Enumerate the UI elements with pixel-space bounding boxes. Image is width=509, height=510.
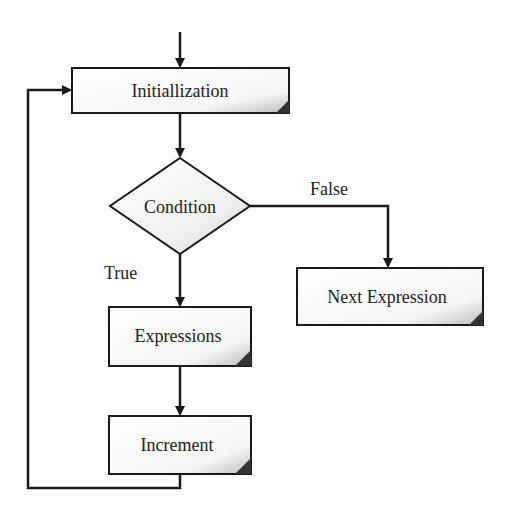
node-label: Condition [144, 197, 216, 217]
edge-label-true: True [104, 263, 137, 283]
edge-condition-false-to-next [250, 206, 388, 266]
node-label: Initiallization [132, 81, 229, 101]
node-label: Next Expression [327, 287, 446, 307]
node-expressions: Expressions [109, 307, 251, 366]
node-next-expression: Next Expression [297, 268, 483, 325]
node-label: Expressions [135, 326, 222, 346]
flowchart-canvas: Initiallization Condition Expressions In… [0, 0, 509, 510]
node-label: Increment [141, 435, 214, 455]
node-condition: Condition [110, 158, 250, 254]
edge-label-false: False [310, 179, 348, 199]
node-initialization: Initiallization [72, 68, 289, 113]
node-increment: Increment [109, 416, 251, 474]
